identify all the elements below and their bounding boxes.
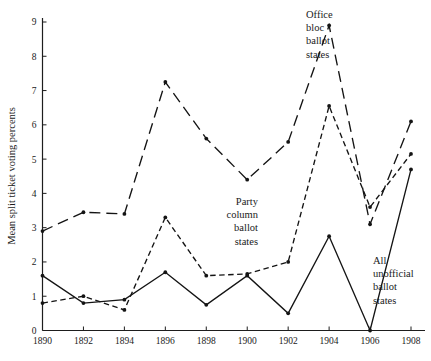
party-column-label: Partycolumnballotstates xyxy=(227,196,259,247)
data-point-all-unofficial-ballot-states-1892 xyxy=(82,301,86,305)
y-tick-label-2: 2 xyxy=(32,257,37,267)
x-tick-label-1902: 1902 xyxy=(279,336,298,346)
data-point-party-column-ballot-states-1906 xyxy=(368,205,372,209)
data-point-party-column-ballot-states-1908 xyxy=(409,152,413,156)
data-point-all-unofficial-ballot-states-1902 xyxy=(286,311,290,315)
x-tick-label-1904: 1904 xyxy=(320,336,339,346)
data-point-office-bloc-ballot-states-1900 xyxy=(245,178,249,182)
y-tick-label-4: 4 xyxy=(32,189,37,199)
data-point-office-bloc-ballot-states-1902 xyxy=(286,140,290,144)
data-point-party-column-ballot-states-1892 xyxy=(82,294,86,298)
y-tick-label-0: 0 xyxy=(32,326,37,336)
data-point-party-column-ballot-states-1896 xyxy=(163,215,167,219)
y-tick-label-1: 1 xyxy=(32,292,37,302)
data-point-office-bloc-ballot-states-1908 xyxy=(409,120,413,124)
split-ticket-voting-line-chart: 0123456789 18901892189418961898190019021… xyxy=(0,0,431,361)
x-tick-label-1898: 1898 xyxy=(197,336,216,346)
data-point-party-column-ballot-states-1898 xyxy=(204,274,208,278)
series-line-all-unofficial-ballot-states xyxy=(43,169,412,330)
data-point-office-bloc-ballot-states-1890 xyxy=(41,229,45,233)
data-point-office-bloc-ballot-states-1894 xyxy=(122,212,126,216)
data-point-office-bloc-ballot-states-1898 xyxy=(204,137,208,141)
x-tick-label-1908: 1908 xyxy=(402,336,421,346)
office-bloc-label: Officeblocballotstates xyxy=(306,9,333,60)
data-point-office-bloc-ballot-states-1906 xyxy=(368,222,372,226)
data-point-all-unofficial-ballot-states-1908 xyxy=(409,167,413,171)
series-line-party-column-ballot-states xyxy=(43,106,412,310)
y-tick-label-5: 5 xyxy=(32,155,37,165)
data-point-all-unofficial-ballot-states-1896 xyxy=(163,270,167,274)
y-axis-title-text: Mean split ticket voting percents xyxy=(6,107,17,245)
chart-container: 0123456789 18901892189418961898190019021… xyxy=(0,0,431,361)
series-layer xyxy=(41,24,413,333)
data-point-all-unofficial-ballot-states-1904 xyxy=(327,234,331,238)
data-point-party-column-ballot-states-1894 xyxy=(122,308,126,312)
data-point-all-unofficial-ballot-states-1906 xyxy=(368,329,372,333)
y-axis-title: Mean split ticket voting percents xyxy=(6,107,17,245)
data-point-all-unofficial-ballot-states-1900 xyxy=(245,274,249,278)
y-tick-label-8: 8 xyxy=(32,52,37,62)
all-unofficial-label: Allunofficialballotstates xyxy=(373,255,414,306)
x-tick-label-1892: 1892 xyxy=(74,336,93,346)
y-tick-label-7: 7 xyxy=(32,86,37,96)
x-tick-label-1896: 1896 xyxy=(156,336,175,346)
data-point-office-bloc-ballot-states-1904 xyxy=(327,24,331,28)
x-tick-label-1900: 1900 xyxy=(238,336,257,346)
x-tick-label-1894: 1894 xyxy=(115,336,134,346)
y-tick-label-6: 6 xyxy=(32,120,37,130)
annotation-layer: OfficeblocballotstatesPartycolumnballots… xyxy=(227,9,414,306)
x-tick-label-1906: 1906 xyxy=(361,336,380,346)
data-point-party-column-ballot-states-1890 xyxy=(41,301,45,305)
data-point-all-unofficial-ballot-states-1890 xyxy=(41,274,45,278)
data-point-party-column-ballot-states-1904 xyxy=(327,104,331,108)
series-line-office-bloc-ballot-states xyxy=(43,25,412,231)
data-point-party-column-ballot-states-1902 xyxy=(286,260,290,264)
y-tick-label-9: 9 xyxy=(32,17,37,27)
y-axis: 0123456789 xyxy=(32,17,47,336)
data-point-office-bloc-ballot-states-1892 xyxy=(82,210,86,214)
data-point-all-unofficial-ballot-states-1894 xyxy=(122,298,126,302)
y-tick-label-3: 3 xyxy=(32,223,37,233)
x-axis: 1890189218941896189819001902190419061908 xyxy=(33,327,425,347)
data-point-all-unofficial-ballot-states-1898 xyxy=(204,303,208,307)
data-point-office-bloc-ballot-states-1896 xyxy=(163,80,167,84)
x-tick-label-1890: 1890 xyxy=(33,336,52,346)
